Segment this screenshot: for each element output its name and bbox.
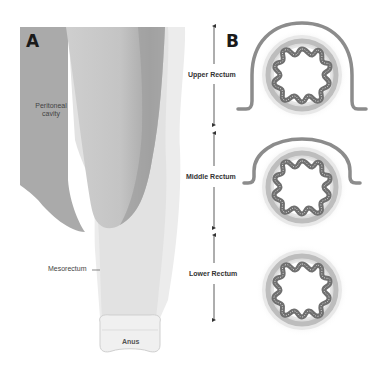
peritoneal-label-line2: cavity <box>28 110 74 118</box>
upper-rectum-cross-section <box>238 23 366 121</box>
mesorectum-label: Mesorectum <box>48 265 87 273</box>
peritoneal-label-line1: Peritoneal <box>28 102 74 110</box>
panel-a-letter: A <box>26 31 39 51</box>
upper-rectum-label: Upper Rectum <box>188 70 236 79</box>
middle-rectum-cross-section <box>244 139 360 233</box>
peritoneal-cavity-label: Peritoneal cavity <box>28 102 74 118</box>
lower-rectum-label: Lower Rectum <box>189 269 237 278</box>
lower-rectum-cross-section <box>256 244 348 336</box>
panel-b-letter: B <box>226 31 239 51</box>
anus-label: Anus <box>122 338 140 346</box>
anal-canal <box>100 315 161 352</box>
rectum-diagram <box>0 0 379 368</box>
middle-rectum-label: Middle Rectum <box>186 172 236 181</box>
